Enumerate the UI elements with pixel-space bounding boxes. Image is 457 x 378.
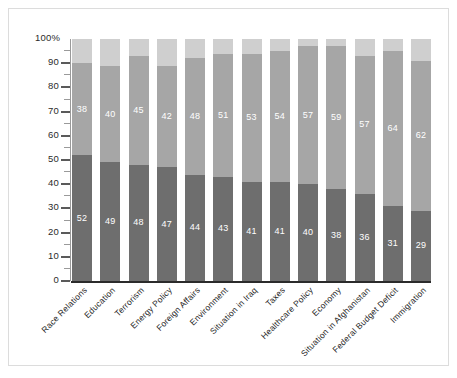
bar-segment-middle-segment[interactable]: 64 — [383, 51, 403, 206]
bar-segment-bottom-segment[interactable]: 31 — [383, 206, 403, 281]
x-axis-category-label: Race Relations — [39, 285, 89, 335]
y-tick-mark — [61, 232, 70, 234]
bar-segment-top-segment[interactable] — [157, 39, 177, 66]
bar-value-label: 40 — [303, 228, 313, 237]
y-tick-mark — [61, 207, 70, 209]
bar-segment-bottom-segment[interactable]: 49 — [100, 162, 120, 281]
bar-value-label: 59 — [331, 113, 341, 122]
bar-segment-top-segment[interactable] — [411, 39, 431, 61]
y-tick-mark — [61, 86, 70, 88]
y-minor-tick-mark — [64, 244, 70, 245]
y-tick-label: 60 — [48, 129, 59, 140]
bar-segment-bottom-segment[interactable]: 52 — [72, 155, 92, 281]
y-tick-label: 70 — [48, 105, 59, 116]
bar-value-label: 31 — [388, 239, 398, 248]
bar-segment-middle-segment[interactable]: 57 — [355, 56, 375, 194]
y-minor-tick-mark — [64, 50, 70, 51]
bar-segment-middle-segment[interactable]: 57 — [298, 46, 318, 184]
y-minor-tick-mark — [64, 268, 70, 269]
bar-value-label: 42 — [162, 112, 172, 121]
stacked-bar[interactable]: 6431 — [383, 39, 403, 281]
stacked-bar[interactable]: 5938 — [326, 39, 346, 281]
bar-value-label: 29 — [416, 241, 426, 250]
stacked-bar[interactable]: 3852 — [72, 39, 92, 281]
bar-value-label: 48 — [190, 112, 200, 121]
bar-segment-middle-segment[interactable]: 38 — [72, 63, 92, 155]
bar-segment-middle-segment[interactable]: 54 — [270, 51, 290, 182]
y-tick-mark — [61, 62, 70, 64]
bar-value-label: 57 — [303, 111, 313, 120]
bar-segment-top-segment[interactable] — [242, 39, 262, 54]
bar-segment-middle-segment[interactable]: 51 — [213, 54, 233, 177]
y-tick-label: 80 — [48, 80, 59, 91]
bar-value-label: 38 — [77, 105, 87, 114]
bar-segment-bottom-segment[interactable]: 36 — [355, 194, 375, 281]
bar-segment-top-segment[interactable] — [72, 39, 92, 63]
stacked-bar[interactable]: 4049 — [100, 39, 120, 281]
stacked-bar[interactable]: 5740 — [298, 39, 318, 281]
bar-segment-bottom-segment[interactable]: 40 — [298, 184, 318, 281]
bar-segment-top-segment[interactable] — [355, 39, 375, 56]
stacked-bar[interactable]: 5143 — [213, 39, 233, 281]
x-axis-category-label: Taxes — [263, 285, 286, 308]
y-minor-tick-mark — [64, 99, 70, 100]
bar-segment-middle-segment[interactable]: 42 — [157, 66, 177, 168]
y-tick-label: 40 — [48, 177, 59, 188]
bar-segment-top-segment[interactable] — [100, 39, 120, 66]
bar-segment-bottom-segment[interactable]: 44 — [185, 175, 205, 281]
y-tick-mark — [61, 159, 70, 161]
bar-value-label: 40 — [105, 110, 115, 119]
bar-segment-bottom-segment[interactable]: 41 — [242, 182, 262, 281]
stacked-bar[interactable]: 5736 — [355, 39, 375, 281]
bar-value-label: 62 — [416, 131, 426, 140]
bar-segment-bottom-segment[interactable]: 29 — [411, 211, 431, 281]
y-minor-tick-mark — [64, 147, 70, 148]
bar-segment-top-segment[interactable] — [326, 39, 346, 46]
stacked-bar[interactable]: 4548 — [129, 39, 149, 281]
bar-value-label: 41 — [275, 227, 285, 236]
bar-value-label: 64 — [388, 124, 398, 133]
y-tick-label: 0 — [54, 274, 59, 285]
y-axis: 0102030405060708090100% — [31, 29, 71, 281]
bar-segment-bottom-segment[interactable]: 48 — [129, 165, 149, 281]
y-tick-mark — [61, 256, 70, 258]
bar-segment-top-segment[interactable] — [213, 39, 233, 54]
bar-value-label: 48 — [133, 218, 143, 227]
y-minor-tick-mark — [64, 74, 70, 75]
bar-segment-middle-segment[interactable]: 45 — [129, 56, 149, 165]
y-minor-tick-mark — [64, 220, 70, 221]
bar-segment-top-segment[interactable] — [383, 39, 403, 51]
y-tick-mark — [61, 135, 70, 137]
stacked-bar[interactable]: 5341 — [242, 39, 262, 281]
bar-segment-middle-segment[interactable]: 62 — [411, 61, 431, 211]
y-tick-mark — [61, 280, 70, 282]
bar-segment-middle-segment[interactable]: 59 — [326, 46, 346, 189]
bar-segment-middle-segment[interactable]: 40 — [100, 66, 120, 163]
bar-value-label: 38 — [331, 231, 341, 240]
bar-value-label: 47 — [162, 220, 172, 229]
bar-value-label: 41 — [246, 227, 256, 236]
bar-group: 3852404945484247484451435341544157405938… — [72, 39, 431, 281]
y-minor-tick-mark — [64, 195, 70, 196]
bar-value-label: 54 — [275, 112, 285, 121]
y-tick-label: 10 — [48, 250, 59, 261]
plot-area: 100% 0102030405060708090100% 38524049454… — [31, 29, 431, 281]
bar-segment-middle-segment[interactable]: 48 — [185, 58, 205, 174]
y-axis-line — [70, 39, 71, 281]
stacked-bar[interactable]: 4247 — [157, 39, 177, 281]
bar-segment-bottom-segment[interactable]: 47 — [157, 167, 177, 281]
x-axis-labels: Race RelationsEducationTerrorismEnergy P… — [72, 285, 431, 366]
bar-value-label: 51 — [218, 111, 228, 120]
bar-segment-top-segment[interactable] — [129, 39, 149, 56]
bar-segment-bottom-segment[interactable]: 38 — [326, 189, 346, 281]
y-tick-label: 90 — [48, 56, 59, 67]
bar-segment-top-segment[interactable] — [185, 39, 205, 58]
stacked-bar[interactable]: 6229 — [411, 39, 431, 281]
bar-segment-middle-segment[interactable]: 53 — [242, 54, 262, 182]
bar-segment-bottom-segment[interactable]: 41 — [270, 182, 290, 281]
bar-segment-top-segment[interactable] — [298, 39, 318, 46]
stacked-bar[interactable]: 5441 — [270, 39, 290, 281]
stacked-bar[interactable]: 4844 — [185, 39, 205, 281]
bar-segment-bottom-segment[interactable]: 43 — [213, 177, 233, 281]
bar-segment-top-segment[interactable] — [270, 39, 290, 51]
